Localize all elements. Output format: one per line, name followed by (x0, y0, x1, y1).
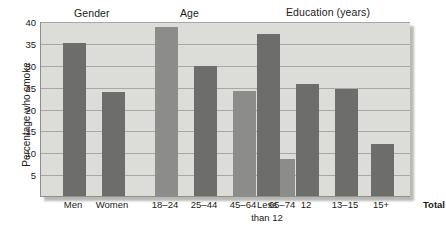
y-axis-tick-label: 30 (25, 60, 36, 71)
bar (257, 34, 280, 196)
plot-area (40, 22, 410, 197)
x-axis-tick-label: Less than 12 (251, 199, 283, 224)
bar (194, 66, 217, 196)
x-axis-tick-label: 18–24 (152, 199, 178, 212)
chart-figure: Gender Age Education (years) Percentage … (0, 0, 446, 252)
y-axis-tick-label: 5 (31, 170, 36, 181)
x-axis-tick-label: 25–44 (191, 199, 217, 212)
x-axis-tick-label: Women (96, 199, 129, 212)
y-axis-tick-label: 20 (25, 104, 36, 115)
group-header-age: Age (180, 7, 199, 19)
bar (155, 27, 178, 196)
group-header-gender: Gender (74, 7, 110, 19)
x-axis-tick-label: 13–15 (332, 199, 358, 212)
bar (233, 91, 256, 196)
x-axis-tick-label: Men (64, 199, 82, 212)
group-header-education: Education (years) (286, 6, 370, 18)
bar (296, 84, 319, 196)
gridline (41, 22, 410, 23)
y-axis-tick-label: 35 (25, 38, 36, 49)
x-axis-tick-label: Total (423, 199, 445, 212)
x-axis-tick-label: 12 (301, 199, 312, 212)
y-axis-tick-labels: 510152025303540 (0, 0, 40, 252)
plot-area-wrapper (40, 22, 410, 197)
bar (63, 43, 86, 196)
bar (371, 144, 394, 197)
gridline (41, 44, 410, 45)
y-axis-tick-label: 25 (25, 82, 36, 93)
bar (102, 92, 125, 196)
y-axis-tick-label: 10 (25, 148, 36, 159)
x-axis-tick-label: 15+ (373, 199, 389, 212)
y-axis-tick-label: 40 (25, 17, 36, 28)
gridline (41, 66, 410, 67)
bar (335, 89, 358, 196)
y-axis-tick-label: 15 (25, 126, 36, 137)
x-axis-tick-labels: MenWomen18–2425–4445–6465–74Less than 12… (40, 199, 412, 249)
